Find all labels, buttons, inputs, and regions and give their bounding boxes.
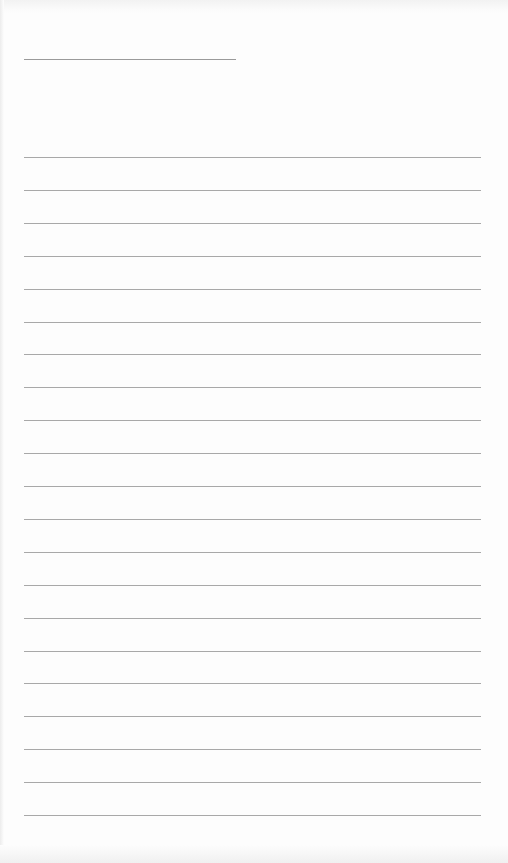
ruled-line bbox=[24, 256, 481, 257]
ruled-line bbox=[24, 289, 481, 290]
ruled-line bbox=[24, 716, 481, 717]
ruled-line bbox=[24, 519, 481, 520]
ruled-line bbox=[24, 387, 481, 388]
ruled-line bbox=[24, 552, 481, 553]
ruled-line bbox=[24, 749, 481, 750]
ruled-line bbox=[24, 618, 481, 619]
ruled-line bbox=[24, 190, 481, 191]
lined-paper-page bbox=[0, 0, 508, 863]
bottom-edge-shadow bbox=[0, 845, 508, 863]
ruled-line bbox=[24, 354, 481, 355]
ruled-line bbox=[24, 157, 481, 158]
ruled-line bbox=[24, 420, 481, 421]
ruled-line bbox=[24, 651, 481, 652]
ruled-line bbox=[24, 782, 481, 783]
ruled-line bbox=[24, 585, 481, 586]
top-edge-shadow bbox=[0, 0, 508, 14]
ruled-line bbox=[24, 486, 481, 487]
ruled-line bbox=[24, 453, 481, 454]
ruled-line bbox=[24, 815, 481, 816]
left-edge-shadow bbox=[0, 0, 4, 863]
ruled-line bbox=[24, 683, 481, 684]
ruled-line bbox=[24, 223, 481, 224]
ruled-line bbox=[24, 322, 481, 323]
title-line bbox=[24, 59, 236, 60]
